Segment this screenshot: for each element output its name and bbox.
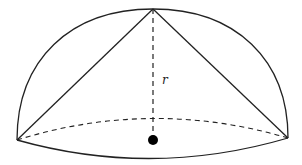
center-point [148, 135, 158, 145]
cone-right-side [153, 9, 288, 138]
diagram-canvas: r [0, 0, 302, 165]
radius-label: r [162, 73, 169, 87]
hemisphere-diagram: r [0, 0, 302, 165]
cone-left-side [17, 9, 153, 140]
